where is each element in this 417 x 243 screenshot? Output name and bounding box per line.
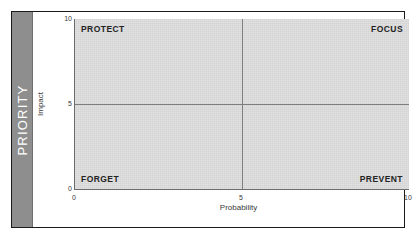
x-axis-tick-0: 0	[66, 194, 82, 201]
x-axis-tick-5: 5	[233, 194, 249, 201]
screenshot-canvas: PRIORITY Impact 10 5 0 PROTECT FOCUS FOR…	[0, 0, 417, 243]
priority-matrix-card: PRIORITY Impact 10 5 0 PROTECT FOCUS FOR…	[11, 11, 405, 228]
gridline-vertical-probability-5	[242, 19, 243, 189]
chart-region: Impact 10 5 0 PROTECT FOCUS FORGET PREVE…	[34, 12, 404, 227]
x-axis-title: Probability	[220, 203, 257, 212]
x-axis-tick-10: 10	[400, 194, 416, 201]
quadrant-label-prevent: PREVENT	[360, 174, 403, 184]
y-axis-tick-10: 10	[64, 15, 72, 22]
y-axis-tick-0: 0	[68, 185, 72, 192]
quadrant-label-forget: FORGET	[81, 174, 119, 184]
y-axis-title: Impact	[36, 92, 45, 116]
y-axis-ticks: 10 5 0	[56, 19, 72, 189]
quadrant-label-focus: FOCUS	[371, 24, 403, 34]
priority-sidebar-label: PRIORITY	[15, 84, 30, 155]
x-axis-title-wrap: Probability	[74, 203, 409, 212]
y-axis-tick-5: 5	[68, 100, 72, 107]
plot-area: PROTECT FOCUS FORGET PREVENT	[74, 19, 409, 190]
priority-sidebar-band: PRIORITY	[12, 12, 33, 227]
quadrant-label-protect: PROTECT	[81, 24, 125, 34]
